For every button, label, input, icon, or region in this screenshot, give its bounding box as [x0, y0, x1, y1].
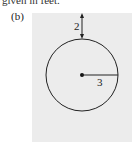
gap-label: 2 [74, 20, 80, 32]
radius-label: 3 [97, 76, 103, 88]
circle-diagram: 2 3 [0, 0, 136, 146]
